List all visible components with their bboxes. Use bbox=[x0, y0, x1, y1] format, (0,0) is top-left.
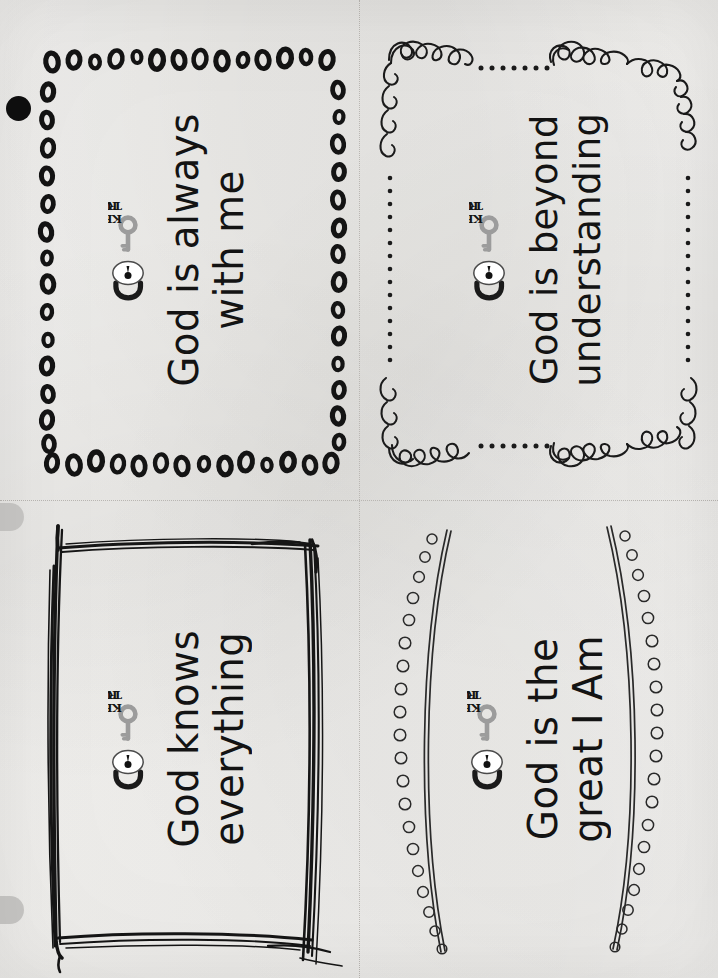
card-top-left[interactable]: KEY TRUTH: God is always with me bbox=[0, 0, 359, 500]
card-bottom-left[interactable]: KEY TRUTH: God knows everything bbox=[0, 500, 359, 978]
key-truth-logo: KEY TRUTH: bbox=[469, 198, 509, 303]
padlock-icon bbox=[108, 748, 148, 792]
card-headline: God is the great I Am bbox=[521, 635, 611, 843]
key-icon: KEY TRUTH: bbox=[469, 198, 509, 256]
padlock-icon bbox=[467, 748, 507, 792]
logo-line1: KEY bbox=[467, 702, 481, 716]
key-truth-logo: KEY TRUTH: bbox=[467, 687, 507, 792]
card-top-right[interactable]: KEY TRUTH: God is beyond understanding bbox=[359, 0, 718, 500]
logo-line1: KEY bbox=[108, 702, 122, 716]
vertical-dotted-cut-line bbox=[359, 0, 360, 978]
logo-line2: TRUTH: bbox=[469, 200, 483, 214]
key-icon: KEY TRUTH: bbox=[467, 687, 507, 745]
key-icon: KEY TRUTH: bbox=[108, 198, 148, 256]
scanner-black-dot bbox=[6, 96, 31, 121]
padlock-icon bbox=[108, 259, 148, 303]
logo-line1: KEY bbox=[469, 213, 483, 227]
card-headline: God is beyond understanding bbox=[523, 113, 608, 387]
key-icon: KEY TRUTH: bbox=[108, 687, 148, 745]
scanned-worksheet-page: KEY TRUTH: God is always with me bbox=[0, 0, 718, 978]
logo-line1: KEY bbox=[108, 213, 122, 227]
key-truth-logo: KEY TRUTH: bbox=[108, 687, 148, 792]
padlock-icon bbox=[469, 259, 509, 303]
card-content-top-left: KEY TRUTH: God is always with me bbox=[35, 105, 325, 395]
card-headline: God knows everything bbox=[162, 630, 252, 848]
horizontal-dotted-cut-line bbox=[0, 500, 718, 501]
card-bottom-right[interactable]: KEY TRUTH: God is the great I Am bbox=[359, 500, 718, 978]
logo-line2: TRUTH: bbox=[108, 689, 122, 703]
logo-line2: TRUTH: bbox=[108, 200, 122, 214]
logo-line2: TRUTH: bbox=[467, 689, 481, 703]
card-content-top-right: KEY TRUTH: God is beyond understanding bbox=[394, 105, 684, 395]
key-truth-logo: KEY TRUTH: bbox=[108, 198, 148, 303]
card-headline: God is always with me bbox=[162, 113, 252, 387]
card-content-bottom-right: KEY TRUTH: God is the great I Am bbox=[394, 594, 684, 884]
card-content-bottom-left: KEY TRUTH: God knows everything bbox=[35, 594, 325, 884]
